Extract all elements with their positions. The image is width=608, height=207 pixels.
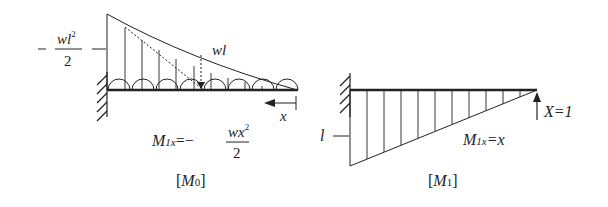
equation-numerator: wx2 <box>228 122 249 140</box>
right-diagram-m1 <box>333 73 541 166</box>
resultant-label: wl <box>212 42 226 58</box>
fixed-support-right <box>340 73 350 117</box>
caption-m1: [M1] <box>428 172 457 189</box>
caption-m0: [M0] <box>176 172 205 189</box>
force-label: X=1 <box>543 103 573 120</box>
moment-label-numerator: wl2 <box>57 29 76 47</box>
moment-curve <box>107 14 297 90</box>
triangle-hatching <box>367 90 520 159</box>
moment-diagonal <box>350 90 537 166</box>
fixed-support-left <box>97 72 107 121</box>
x-label: x <box>279 108 287 124</box>
left-diagram-m0 <box>38 14 298 121</box>
beam-moment-diagrams: wl2 2 wl x M1x=− wx2 2 [M0] <box>0 0 608 207</box>
length-label: l <box>320 127 325 144</box>
equation-denominator: 2 <box>233 145 241 161</box>
moment-label-denominator: 2 <box>64 53 72 69</box>
equation-right: M1x=x <box>462 131 505 148</box>
equation-left: M1x=− <box>151 132 194 149</box>
moment-hatching <box>125 28 262 90</box>
